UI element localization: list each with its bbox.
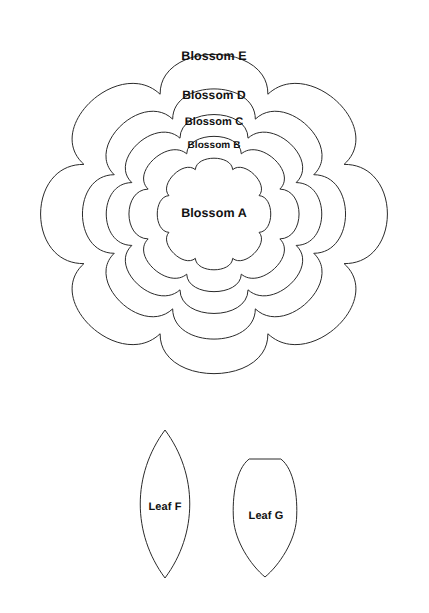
blossom-a-label: Blossom A [181, 206, 247, 220]
blossom-b-label: Blossom B [187, 140, 240, 151]
pattern-template-sheet: Blossom E Blossom D Blossom C Blossom B … [0, 0, 429, 613]
blossom-d-label: Blossom D [182, 88, 246, 102]
blossom-c-label: Blossom C [185, 116, 243, 128]
leaf-g-label: Leaf G [249, 510, 284, 522]
blossom-e-label: Blossom E [181, 49, 247, 63]
leaf-f-label: Leaf F [149, 501, 182, 513]
